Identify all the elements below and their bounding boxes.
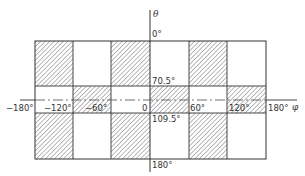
phi-axis-label: φ xyxy=(292,102,299,112)
theta-tick-0: 0° xyxy=(152,29,162,39)
theta-axis-label: θ xyxy=(153,9,159,19)
shaded-cell xyxy=(35,113,73,159)
shaded-cell xyxy=(189,41,227,86)
phi-tick-0: 0 xyxy=(142,103,147,113)
shaded-cell xyxy=(35,41,73,86)
phi-tick-neg60: −60° xyxy=(85,103,107,113)
phi-tick-60: 60° xyxy=(190,103,205,113)
theta-tick-180: 180° xyxy=(152,160,172,170)
theta-tick-70-5: 70.5° xyxy=(152,76,175,86)
phi-tick-neg180: −180° xyxy=(6,103,34,113)
phi-tick-180: 180° xyxy=(268,103,288,113)
shaded-cell xyxy=(189,113,227,159)
theta-tick-109-5: 109.5° xyxy=(152,114,181,124)
phi-tick-120: 120° xyxy=(229,103,249,113)
shaded-cell xyxy=(111,41,150,86)
shaded-cell xyxy=(111,113,150,159)
phi-theta-diagram: θ φ 0° 70.5° 109.5° 180° −180° −120° −60… xyxy=(0,0,305,176)
shaded-cell xyxy=(150,86,189,113)
phi-tick-neg120: −120° xyxy=(44,103,72,113)
